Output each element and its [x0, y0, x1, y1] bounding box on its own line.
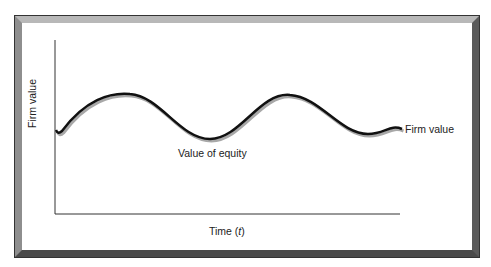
region-label: Value of equity	[178, 147, 247, 159]
x-axis-label-prefix: Time (	[209, 225, 238, 237]
y-axis-label: Firm value	[26, 79, 38, 128]
x-axis-label: Time (t)	[209, 225, 245, 237]
x-axis-label-suffix: )	[241, 225, 245, 237]
curve-label: Firm value	[405, 123, 454, 135]
firm-value-curve	[56, 94, 402, 139]
curve-shadow	[58, 96, 404, 141]
